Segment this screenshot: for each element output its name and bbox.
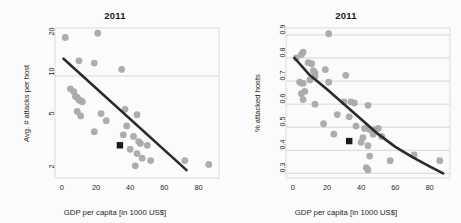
x-tick-label: 80	[187, 183, 211, 192]
x-tick-label: 20	[315, 183, 339, 192]
plot-area-left	[55, 28, 219, 178]
panel-left-ylabel: Avg. # attacks per host	[22, 64, 31, 141]
x-tick-label: 20	[84, 183, 108, 192]
panel-left-xlabel: GDP per capita [in 1000 US$]	[0, 208, 230, 217]
plot-area-right	[286, 28, 450, 178]
x-tick-label: 60	[383, 183, 407, 192]
figure-container: 2011 Avg. # attacks per host GDP per cap…	[0, 0, 461, 223]
panel-right-ylabel: % attacked hosts	[253, 74, 262, 132]
panel-right: 2011 % attacked hosts GDP per capita [in…	[231, 0, 461, 223]
panel-left: 2011 Avg. # attacks per host GDP per cap…	[0, 0, 230, 223]
x-tick-label: 0	[281, 183, 305, 192]
x-tick-label: 40	[118, 183, 142, 192]
x-tick-label: 60	[152, 183, 176, 192]
x-tick-label: 80	[418, 183, 442, 192]
panel-right-xlabel: GDP per capita [in 1000 US$]	[231, 208, 461, 217]
x-tick-label: 40	[349, 183, 373, 192]
x-tick-label: 0	[50, 183, 74, 192]
